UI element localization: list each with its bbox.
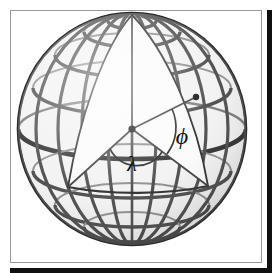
figure-root: λ ϕ [0,0,272,273]
frame-shadow-right [267,10,272,273]
figure-frame: λ ϕ [10,10,262,263]
phi-label: ϕ [176,123,188,149]
surface-point [193,94,199,100]
lambda-label: λ [126,151,137,176]
frame-shadow-bottom [10,268,272,273]
sphere-diagram-svg: λ ϕ [11,11,261,262]
sphere-center-point [128,125,135,132]
